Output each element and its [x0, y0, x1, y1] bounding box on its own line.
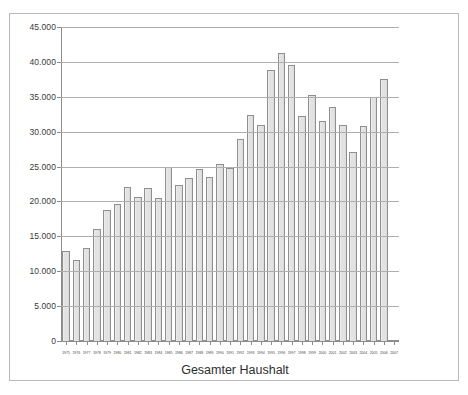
x-tick-slot [71, 341, 81, 346]
bar [380, 79, 388, 341]
x-tick-slot [61, 341, 71, 346]
x-tick-label: 1983 [143, 347, 153, 359]
x-tick-slot [246, 341, 256, 346]
y-tick-mark [57, 62, 61, 63]
x-tick-mark [87, 341, 88, 345]
x-tick-label: 1976 [71, 347, 81, 359]
x-tick-label: 2000 [317, 347, 327, 359]
x-tick-slot [276, 341, 286, 346]
x-tick-slot [358, 341, 368, 346]
bar-slot [61, 27, 71, 341]
x-tick-mark [312, 341, 313, 345]
bar-slot [143, 27, 153, 341]
x-tick-label: 1989 [205, 347, 215, 359]
bar [83, 248, 91, 341]
x-tick-mark [189, 341, 190, 345]
x-tick-label: 1977 [82, 347, 92, 359]
bar [144, 188, 152, 342]
x-tick-mark [394, 341, 395, 345]
x-tick-slot [328, 341, 338, 346]
x-tick-label: 1982 [133, 347, 143, 359]
x-tick-label: 1995 [266, 347, 276, 359]
x-tick-mark [271, 341, 272, 345]
x-tick-mark [251, 341, 252, 345]
bar [196, 169, 204, 341]
bar [114, 204, 122, 341]
bar [62, 251, 70, 341]
gridline [61, 27, 399, 28]
x-tick-mark [66, 341, 67, 345]
y-tick-mark [57, 132, 61, 133]
x-tick-mark [384, 341, 385, 345]
y-tick-mark [57, 236, 61, 237]
x-tick-label: 2001 [328, 347, 338, 359]
x-tick-mark [179, 341, 180, 345]
x-tick-slot [184, 341, 194, 346]
x-tick-mark [210, 341, 211, 345]
gridline [61, 167, 399, 168]
x-tick-slot [82, 341, 92, 346]
bar [175, 185, 183, 341]
bar [349, 152, 357, 341]
bar [267, 70, 275, 341]
x-tick-label: 1987 [184, 347, 194, 359]
x-tick-mark [281, 341, 282, 345]
bar-slot [164, 27, 174, 341]
bar [298, 116, 306, 341]
x-tick-mark [292, 341, 293, 345]
x-tick-label: 1981 [123, 347, 133, 359]
y-axis-labels: 45.00040.00035.00030.00025.00020.00015.0… [10, 27, 56, 341]
bar-slot [287, 27, 297, 341]
y-tick-label: 20.000 [29, 196, 56, 206]
y-tick-mark [57, 27, 61, 28]
bar-slot [71, 27, 81, 341]
bar-slot [235, 27, 245, 341]
x-tick-label: 2005 [369, 347, 379, 359]
x-tick-mark [107, 341, 108, 345]
gridline [61, 62, 399, 63]
bar-slot [348, 27, 358, 341]
x-tick-mark [302, 341, 303, 345]
bar-slot [194, 27, 204, 341]
bar-slot [112, 27, 122, 341]
chart-figure: 45.00040.00035.00030.00025.00020.00015.0… [9, 13, 459, 381]
figure-top-caption [72, 14, 402, 25]
bar-slot [379, 27, 389, 341]
x-tick-mark [343, 341, 344, 345]
x-tick-label: 1980 [112, 347, 122, 359]
bar-slot [153, 27, 163, 341]
gridline [61, 201, 399, 202]
x-tick-slot [123, 341, 133, 346]
x-tick-slot [389, 341, 399, 346]
x-tick-slot [338, 341, 348, 346]
x-tick-label: 1998 [297, 347, 307, 359]
x-tick-label: 1979 [102, 347, 112, 359]
gridline [61, 97, 399, 98]
x-tick-label: 1978 [92, 347, 102, 359]
x-tick-label: 1985 [164, 347, 174, 359]
x-tick-slot [194, 341, 204, 346]
x-tick-label: 2006 [379, 347, 389, 359]
y-tick-label: 35.000 [29, 92, 56, 102]
x-tick-slot [92, 341, 102, 346]
bar [360, 126, 368, 341]
bar [216, 164, 224, 341]
x-tick-mark [128, 341, 129, 345]
x-tick-mark [97, 341, 98, 345]
x-tick-slot [317, 341, 327, 346]
bar-slot [205, 27, 215, 341]
bar [226, 168, 234, 341]
y-tick-mark [57, 97, 61, 98]
bar-slot [358, 27, 368, 341]
y-tick-label: 25.000 [29, 162, 56, 172]
x-tick-mark [169, 341, 170, 345]
x-tick-slot [133, 341, 143, 346]
bar [103, 210, 111, 341]
x-tick-label: 1992 [235, 347, 245, 359]
bar-slot [317, 27, 327, 341]
gridline [61, 271, 399, 272]
x-tick-slot [256, 341, 266, 346]
gridline [61, 236, 399, 237]
y-tick-label: 0 [51, 336, 56, 346]
gridline [61, 306, 399, 307]
